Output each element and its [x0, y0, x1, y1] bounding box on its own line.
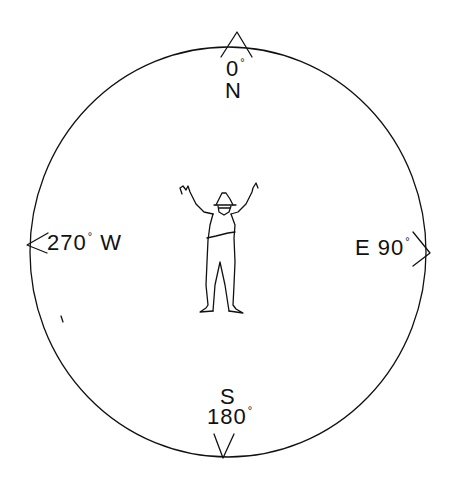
west-degrees: 270 — [47, 230, 87, 255]
south-degrees: 180 — [207, 404, 247, 429]
east-letter: E — [355, 235, 371, 260]
degree-symbol: ° — [88, 230, 93, 242]
south-pointer-icon — [214, 434, 234, 458]
east-pointer-icon — [413, 232, 430, 266]
north-letter-label: N — [225, 78, 242, 104]
person-figure-icon — [180, 183, 258, 313]
west-letter: W — [100, 230, 122, 255]
pen-mark — [61, 316, 63, 322]
south-degree-label: 180° — [207, 404, 253, 430]
east-degrees: 90 — [378, 235, 404, 260]
east-label: E 90° — [355, 235, 411, 261]
west-label: 270° W — [47, 230, 122, 256]
north-pointer-icon — [221, 32, 252, 57]
degree-symbol: ° — [405, 235, 410, 247]
degree-symbol: ° — [248, 404, 253, 416]
degree-symbol: ° — [240, 56, 245, 68]
